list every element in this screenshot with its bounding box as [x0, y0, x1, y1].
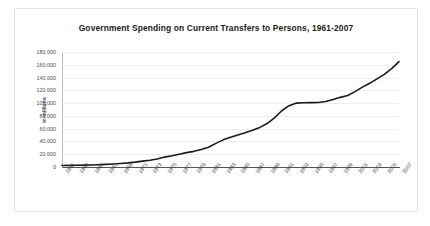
y-axis-tick-label: 20,000 [0, 151, 56, 157]
y-axis-tick-label: 100,000 [0, 100, 56, 106]
y-axis-tick-label: 120,000 [0, 87, 56, 93]
chart-container: Government Spending on Current Transfers… [14, 8, 418, 212]
y-axis-tick-label: 60,000 [0, 126, 56, 132]
plot-wrapper: in millions 180,000160,000140,000120,000… [62, 52, 399, 167]
series-line [62, 52, 399, 167]
y-axis-tick-label: 140,000 [0, 75, 56, 81]
y-axis-tick-label: 80,000 [0, 113, 56, 119]
chart-title: Government Spending on Current Transfers… [15, 23, 417, 33]
y-axis-tick-label: 180,000 [0, 49, 56, 55]
y-axis-tick-label: 160,000 [0, 62, 56, 68]
y-axis-tick-label: 40,000 [0, 138, 56, 144]
y-axis-tick-label: 0 [0, 164, 56, 170]
data-series-line [62, 62, 399, 166]
x-axis-tick-label: 2007 [401, 161, 413, 174]
